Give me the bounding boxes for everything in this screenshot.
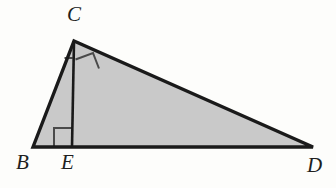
vertex-label-C: C (67, 4, 81, 25)
vertex-label-B: B (16, 152, 29, 173)
vertex-label-E: E (61, 152, 74, 173)
triangle-diagram-svg (0, 0, 336, 188)
geometry-figure: C B E D (0, 0, 336, 188)
vertex-label-D: D (307, 155, 322, 176)
